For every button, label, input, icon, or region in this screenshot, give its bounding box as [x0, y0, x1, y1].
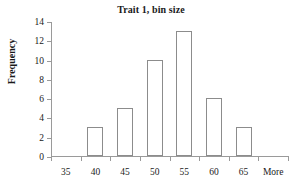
y-tick-mark: [47, 41, 52, 42]
bar: [236, 127, 252, 156]
x-tick-label: 60: [209, 167, 219, 177]
bar: [117, 108, 133, 156]
x-tick-label: 50: [150, 167, 160, 177]
x-tick-label: 45: [120, 167, 130, 177]
bar: [206, 98, 222, 156]
x-tick-mark: [81, 156, 82, 161]
y-tick-mark: [47, 61, 52, 62]
y-axis-label: Frequency: [6, 17, 17, 107]
y-tick-mark: [47, 118, 52, 119]
y-tick-label: 12: [35, 36, 45, 46]
y-tick-label: 10: [35, 56, 45, 66]
x-tick-mark: [140, 156, 141, 161]
x-tick-mark: [51, 156, 52, 161]
y-tick-label: 14: [35, 17, 45, 27]
y-tick-label: 2: [39, 133, 44, 143]
x-tick-mark: [110, 156, 111, 161]
y-tick-mark: [47, 99, 52, 100]
x-tick-label: 55: [180, 167, 190, 177]
y-tick-label: 6: [39, 94, 44, 104]
y-tick-mark: [47, 80, 52, 81]
x-tick-label: 40: [91, 167, 101, 177]
y-tick-label: 0: [39, 152, 44, 162]
bar: [147, 60, 163, 156]
x-tick-mark: [288, 156, 289, 161]
x-tick-mark: [199, 156, 200, 161]
x-tick-mark: [258, 156, 259, 161]
y-tick-mark: [47, 138, 52, 139]
y-tick-mark: [47, 22, 52, 23]
x-tick-mark: [170, 156, 171, 161]
y-tick-label: 8: [39, 75, 44, 85]
bar: [176, 31, 192, 156]
plot-area: 02468101214 35404550556065More: [51, 22, 288, 157]
x-tick-mark: [229, 156, 230, 161]
x-tick-label: 35: [61, 167, 71, 177]
bar: [87, 127, 103, 156]
histogram-chart: Trait 1, bin size Frequency 02468101214 …: [0, 0, 302, 183]
chart-title: Trait 1, bin size: [0, 4, 302, 15]
y-tick-label: 4: [39, 113, 44, 123]
x-tick-label: More: [263, 167, 284, 177]
x-tick-label: 65: [239, 167, 249, 177]
